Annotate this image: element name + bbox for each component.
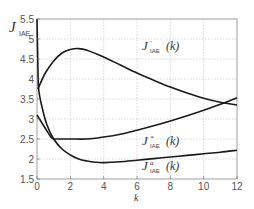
x-axis-ticks: 024681012 (34, 176, 243, 192)
y-tick-label: 2 (28, 154, 34, 165)
svg-text:*: * (150, 134, 154, 142)
y-axis-ticks: 1.522.533.544.555.5 (20, 14, 40, 185)
svg-text:J: J (142, 158, 149, 173)
x-tick-label: 10 (198, 181, 210, 192)
svg-text:a: a (150, 159, 154, 167)
x-tick-label: 12 (231, 181, 243, 192)
y-tick-label: 4.5 (20, 54, 34, 65)
svg-text:(k): (k) (166, 159, 179, 173)
svg-text:J: J (142, 133, 149, 148)
x-axis-label: k (134, 192, 139, 203)
x-tick-label: 0 (34, 181, 40, 192)
y-axis-label-sub: IAE (19, 30, 31, 37)
x-tick-label: 2 (68, 181, 74, 192)
svg-text:IAE: IAE (150, 143, 160, 149)
x-tick-label: 6 (134, 181, 140, 192)
y-tick-label: 4 (28, 74, 34, 85)
x-tick-label: 4 (101, 181, 107, 192)
svg-text:IAE: IAE (150, 48, 160, 54)
y-tick-label: 3 (28, 114, 34, 125)
series-label-0: J'IAE(k) (142, 38, 179, 54)
svg-text:': ' (150, 39, 152, 47)
series-label-2: JaIAE(k) (142, 158, 179, 174)
svg-text:IAE: IAE (150, 168, 160, 174)
y-tick-label: 2.5 (20, 134, 34, 145)
series-labels: J'IAE(k)J*IAE(k)JaIAE(k) (142, 38, 179, 174)
svg-text:(k): (k) (166, 134, 179, 148)
x-tick-label: 8 (168, 181, 174, 192)
y-tick-label: 1.5 (20, 174, 34, 185)
series-line-0 (38, 49, 237, 105)
svg-text:(k): (k) (166, 39, 179, 53)
series-label-1: J*IAE(k) (142, 133, 179, 149)
line-chart: 024681012 1.522.533.544.555.5 J'IAE(k)J*… (0, 0, 254, 209)
y-tick-label: 3.5 (20, 94, 34, 105)
y-tick-label: 5.5 (20, 14, 34, 25)
svg-text:J: J (142, 38, 149, 53)
y-axis-label-main: J (9, 19, 17, 35)
